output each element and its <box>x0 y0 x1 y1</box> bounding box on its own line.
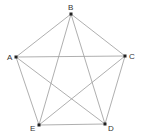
labels-group: ABCDE <box>7 3 135 133</box>
vertex-d <box>104 123 107 126</box>
edge-c-e <box>39 56 125 125</box>
edge-a-d <box>16 57 105 124</box>
edge-b-c <box>71 14 125 56</box>
edge-a-c <box>16 56 125 57</box>
graph-canvas: ABCDE <box>0 0 141 139</box>
edge-d-e <box>39 124 105 125</box>
vertex-e <box>38 124 41 127</box>
vertex-a <box>15 56 18 59</box>
edge-a-e <box>16 57 39 125</box>
vertex-c <box>124 55 127 58</box>
edge-b-e <box>39 14 71 125</box>
vertex-label-c: C <box>129 52 135 61</box>
edge-a-b <box>16 14 71 57</box>
vertex-label-b: B <box>68 3 73 12</box>
vertex-label-a: A <box>7 53 13 62</box>
edge-c-d <box>105 56 125 124</box>
vertex-label-e: E <box>30 124 35 133</box>
vertex-label-d: D <box>108 124 114 133</box>
edges-group <box>16 14 125 125</box>
edge-b-d <box>71 14 105 124</box>
graph-diagram: ABCDE <box>0 0 141 139</box>
vertex-b <box>70 13 73 16</box>
